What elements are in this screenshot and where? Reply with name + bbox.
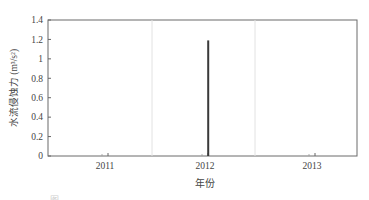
chart: 00.20.40.60.811.21.4 201120122013 年份 水流侵… [0, 0, 369, 200]
x-axis-title: 年份 [195, 177, 215, 189]
y-tick-label: 0 [38, 151, 43, 161]
x-tick-label: 2011 [96, 161, 115, 171]
y-tick-label: 1.2 [31, 35, 43, 45]
figure-caption: 图 [50, 193, 60, 200]
y-tick-label: 1 [38, 54, 43, 64]
y-tick-label: 0.2 [31, 132, 43, 142]
y-tick-label: 0.6 [31, 93, 43, 103]
y-axis-title: 水流侵蚀力 (m³/s²) [8, 49, 20, 127]
y-tick-label: 0.8 [31, 74, 43, 84]
bar-series [207, 40, 209, 156]
y-tick-label: 0.4 [31, 112, 43, 122]
plot-frame [48, 20, 357, 156]
x-tick-label: 2013 [303, 161, 322, 171]
y-tick-label: 1.4 [31, 15, 43, 25]
bar [207, 40, 209, 156]
x-tick-label: 2012 [196, 161, 215, 171]
